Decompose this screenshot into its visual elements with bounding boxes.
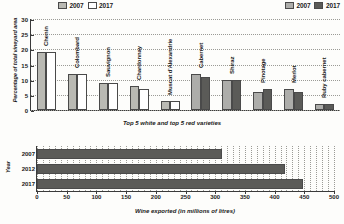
category-label: Merlot	[290, 65, 296, 82]
bar	[294, 92, 304, 110]
legend-swatch-icon	[58, 2, 67, 9]
horizontal-bar: 2007	[37, 149, 222, 159]
bar	[263, 89, 273, 110]
bar	[68, 74, 78, 110]
bar	[108, 83, 118, 110]
legend-label: 2017	[326, 2, 340, 9]
bar	[46, 52, 56, 110]
y-axis-tick-label: 2007	[22, 151, 35, 157]
x-axis-tick-label: 0	[35, 194, 38, 200]
legend-item-red-2007: 2007	[285, 2, 311, 9]
category-label: Pinotage	[259, 58, 265, 83]
plot-area-top: 051015202530 CheninColombardSauvignonCha…	[30, 19, 340, 111]
horizontal-bar: 2012	[37, 164, 285, 174]
chart-page: 2007 2017 2007 2017 Percentage of total …	[0, 0, 344, 224]
category-label: Ruby cabernet	[321, 58, 327, 98]
legend-swatch-icon	[314, 2, 323, 9]
legend-item-white-2017: 2017	[88, 2, 114, 9]
y-axis-tick-label: 15	[21, 63, 31, 69]
bar	[191, 74, 201, 110]
gridline	[322, 146, 323, 191]
bar	[253, 92, 263, 110]
x-axis-title: Top 5 white and top 5 red varieties	[0, 120, 344, 126]
legend-red-varieties: 2007 2017	[285, 2, 340, 9]
legend-item-white-2007: 2007	[58, 2, 84, 9]
x-axis-tick-label: 150	[121, 194, 131, 200]
legend-item-red-2017: 2017	[314, 2, 340, 9]
bar	[161, 101, 171, 110]
x-axis-tick-label: 200	[151, 194, 161, 200]
x-axis-tick-label: 500	[329, 194, 339, 200]
x-axis-tick-label: 50	[63, 194, 70, 200]
bar-group: Merlot	[280, 19, 308, 110]
gridline	[310, 146, 311, 191]
bar	[324, 104, 334, 110]
bar-group: Sauvignon	[94, 19, 122, 110]
y-axis-tick-label: 20	[21, 47, 31, 53]
category-label: Cabernet	[197, 42, 203, 67]
legend-label: 2017	[99, 2, 113, 9]
legend-label: 2007	[296, 2, 310, 9]
y-axis-title-bottom: Year	[5, 149, 11, 185]
x-axis-tick-label: 450	[299, 194, 309, 200]
bar-group: Ruby cabernet	[310, 19, 338, 110]
gridline	[334, 146, 335, 191]
y-axis-tick-label: 2012	[22, 166, 35, 172]
bar	[222, 80, 232, 110]
bar-group: Cabernet	[187, 19, 215, 110]
gridline	[328, 146, 329, 191]
gridline	[304, 146, 305, 191]
wine-export-chart: Year 050100150200250300350400450500 2007…	[0, 142, 344, 224]
bar	[284, 89, 294, 110]
category-label: Sauvignon	[105, 47, 111, 77]
bar-group: Colombard	[63, 19, 91, 110]
bar	[170, 101, 180, 110]
bar-group: Pinotage	[249, 19, 277, 110]
legend-swatch-icon	[285, 2, 294, 9]
y-axis-tick-label: 30	[21, 17, 31, 23]
x-axis-tick-label: 350	[240, 194, 250, 200]
bar	[77, 74, 87, 110]
bar	[130, 86, 140, 110]
gridline: 0	[31, 110, 340, 111]
x-axis-title-bottom: Wine exported (in millions of litres)	[36, 208, 334, 214]
bar-group: Muscat d'Alexandrie	[156, 19, 184, 110]
legend-swatch-icon	[88, 2, 97, 9]
bar-group: Chardonnay	[125, 19, 153, 110]
vineyard-area-chart: Percentage of total vineyard area 051015…	[0, 13, 344, 125]
bar-group: Chenin	[32, 19, 60, 110]
horizontal-bar: 2017	[37, 179, 303, 189]
x-axis-tick-label: 250	[180, 194, 190, 200]
y-axis-title: Percentage of total vineyard area	[12, 7, 18, 113]
bar-groups: CheninColombardSauvignonChardonnayMuscat…	[31, 19, 340, 110]
bar	[232, 80, 242, 110]
bar	[37, 52, 47, 110]
bar	[201, 77, 211, 110]
y-axis-tick-label: 2017	[22, 181, 35, 187]
bar	[139, 89, 149, 110]
category-label: Chenin	[43, 27, 49, 47]
bar	[315, 104, 325, 110]
bar-group: Shiraz	[218, 19, 246, 110]
category-label: Chardonnay	[136, 46, 142, 80]
gridline	[316, 146, 317, 191]
x-axis-tick-label: 300	[210, 194, 220, 200]
legend-white-varieties: 2007 2017	[58, 2, 113, 9]
bar	[99, 83, 109, 110]
category-label: Shiraz	[228, 56, 234, 73]
y-axis-tick-label: 25	[21, 32, 31, 38]
y-axis-tick-label: 10	[21, 78, 31, 84]
category-label: Muscat d'Alexandrie	[167, 39, 173, 95]
plot-area-bottom: 050100150200250300350400450500 200720122…	[36, 146, 334, 192]
x-axis-tick-label: 100	[91, 194, 101, 200]
legend-label: 2007	[70, 2, 84, 9]
x-axis-tick-label: 400	[270, 194, 280, 200]
category-label: Colombard	[74, 37, 80, 68]
